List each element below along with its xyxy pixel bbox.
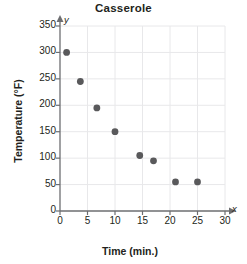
y-tick-label-text: 50 — [22, 178, 56, 189]
y-axis-letter: y — [64, 14, 69, 25]
x-tick-label: 20 — [158, 215, 182, 226]
data-points — [63, 49, 201, 185]
x-tick-label: 10 — [103, 215, 127, 226]
y-tick-label-text: 0 — [22, 204, 56, 215]
x-tick-label: 0 — [48, 215, 72, 226]
y-tick-label-text: 150 — [22, 125, 56, 136]
x-tick-label: 15 — [131, 215, 155, 226]
y-tick-label-text: 350 — [22, 19, 56, 30]
y-tick-label-text: 200 — [22, 98, 56, 109]
y-tick-label-text: 100 — [22, 151, 56, 162]
y-tick-label-text: 250 — [22, 72, 56, 83]
x-tick-label: 25 — [186, 215, 210, 226]
x-tick-label: 5 — [76, 215, 100, 226]
x-tick-label: 30 — [213, 215, 237, 226]
x-axis-letter: x — [232, 203, 237, 214]
axis-ticks — [56, 26, 225, 215]
y-tick-label-text: 300 — [22, 45, 56, 56]
chart-container: Casserole Temperature (°F) Time (min.) 0… — [0, 0, 247, 264]
